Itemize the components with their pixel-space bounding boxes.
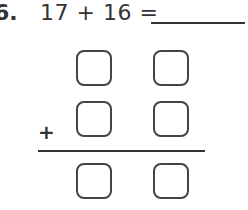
sum-rule-line: [38, 150, 205, 152]
equation: 17 + 16 =: [40, 0, 158, 25]
plus-sign: +: [38, 120, 55, 144]
problem-number: 6.: [0, 0, 18, 25]
ones-box-sum[interactable]: [153, 163, 189, 199]
tens-box-sum[interactable]: [76, 163, 112, 199]
ones-box-addend-2[interactable]: [153, 101, 189, 137]
ones-box-addend-1[interactable]: [153, 50, 189, 86]
tens-box-addend-1[interactable]: [76, 50, 112, 86]
tens-box-addend-2[interactable]: [76, 101, 112, 137]
answer-blank-line[interactable]: [151, 22, 245, 24]
